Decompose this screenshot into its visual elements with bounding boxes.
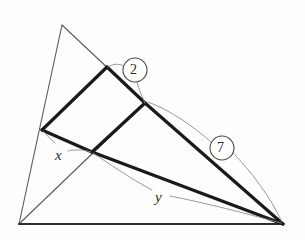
segment-left-mid-to-top-mid (42, 67, 107, 130)
line-apex-to-bottom-left (19, 25, 62, 224)
label-x: x (55, 148, 62, 163)
segment-y (92, 152, 283, 224)
segment-center-to-right-mid (92, 103, 145, 152)
label-seven: 7 (217, 141, 224, 155)
bold-segments (42, 67, 283, 224)
segment-x (42, 130, 92, 152)
thin-construction-lines (19, 25, 145, 224)
figure-canvas (0, 0, 305, 240)
leader-two-to-top-mid (108, 64, 124, 67)
geometry-figure: 2 7 x y (0, 0, 305, 240)
leader-seven-to-right-mid (148, 102, 211, 142)
label-y: y (155, 190, 162, 205)
label-two: 2 (130, 63, 137, 77)
